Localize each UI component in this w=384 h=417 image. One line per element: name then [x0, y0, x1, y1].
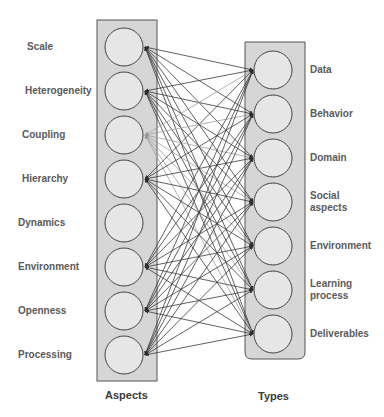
connection-line — [145, 70, 253, 355]
types-title: Types — [258, 390, 289, 402]
connection-line — [145, 70, 253, 135]
type-node — [254, 51, 292, 89]
aspect-node — [105, 28, 143, 66]
aspect-label: Openness — [18, 305, 66, 317]
type-label: Socialaspects — [310, 190, 347, 214]
aspect-node — [105, 292, 143, 330]
aspect-label: Environment — [18, 261, 79, 273]
aspect-node — [105, 204, 143, 242]
connection-line — [145, 70, 253, 311]
type-label: Learningprocess — [310, 278, 352, 302]
connection-line — [145, 246, 253, 355]
connection-line — [145, 70, 253, 179]
type-label: Data — [310, 64, 332, 76]
connection-line — [145, 290, 253, 355]
aspect-label: Hierarchy — [22, 173, 68, 185]
connection-line — [145, 114, 253, 355]
type-label: Behavior — [310, 108, 353, 120]
connection-line — [145, 70, 253, 91]
aspect-node — [105, 160, 143, 198]
aspect-node — [105, 116, 143, 154]
connection-line — [145, 158, 253, 355]
aspect-node — [105, 336, 143, 374]
aspect-label: Dynamics — [18, 217, 65, 229]
type-node — [254, 271, 292, 309]
type-label: Domain — [310, 152, 347, 164]
type-node — [254, 183, 292, 221]
aspects-title: Aspects — [105, 389, 148, 401]
connection-line — [145, 202, 253, 355]
aspect-label: Processing — [18, 349, 72, 361]
connection-line — [145, 334, 253, 355]
connection-line — [145, 70, 253, 267]
type-label: Environment — [310, 240, 371, 252]
aspect-label: Scale — [27, 41, 53, 53]
type-node — [254, 139, 292, 177]
type-node — [254, 95, 292, 133]
type-node — [254, 227, 292, 265]
aspect-label: Coupling — [22, 129, 65, 141]
aspect-node — [105, 248, 143, 286]
aspect-label: Heterogeneity — [25, 85, 92, 97]
aspect-node — [105, 72, 143, 110]
connection-lines — [145, 47, 253, 355]
type-node — [254, 315, 292, 353]
type-label: Deliverables — [310, 328, 369, 340]
connection-line — [145, 47, 253, 70]
